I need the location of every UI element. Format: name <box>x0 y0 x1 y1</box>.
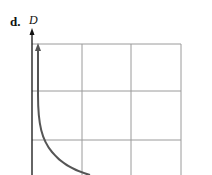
graph <box>0 0 212 175</box>
y-axis-arrow-icon <box>30 28 35 35</box>
